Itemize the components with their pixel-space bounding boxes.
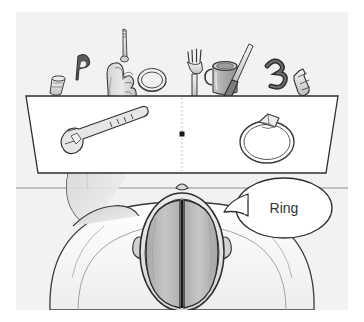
speech-bubble-text: Ring <box>270 200 299 216</box>
figure-root: Ring <box>0 0 364 322</box>
ring-band-object <box>138 68 166 92</box>
tachistoscope-screen <box>26 96 348 173</box>
fixation-dot <box>180 132 185 137</box>
illustration-panel: Ring <box>16 12 348 310</box>
scene-svg: Ring <box>16 12 348 310</box>
